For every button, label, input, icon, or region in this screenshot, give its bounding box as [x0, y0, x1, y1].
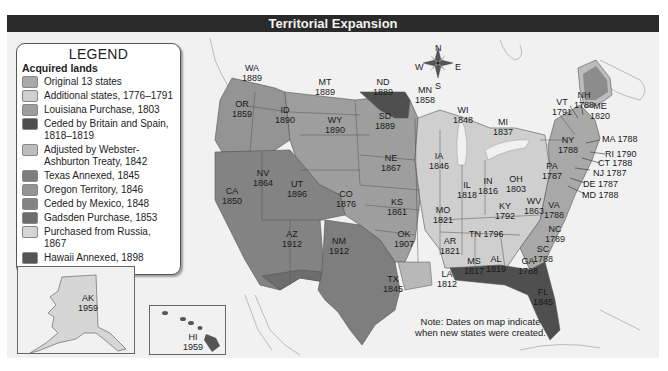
legend-swatch [22, 104, 38, 116]
state-label-la: LA1812 [437, 270, 457, 289]
state-label-ak: AK1959 [78, 294, 98, 313]
state-label-ia: IA1846 [429, 152, 449, 171]
state-label-ne: NE1867 [381, 154, 401, 173]
state-label-wi: WI1848 [453, 106, 473, 125]
state-label-co: CO1876 [336, 190, 356, 209]
legend-swatch [22, 252, 38, 264]
legend-item: Hawaii Annexed, 1898 [22, 252, 175, 264]
legend: LEGEND Acquired lands Original 13 states… [16, 43, 181, 275]
legend-swatch [22, 198, 38, 210]
state-label-or: OR1859 [232, 100, 252, 119]
state-label-tx: TX1845 [383, 275, 403, 294]
state-label-me: ME1820 [590, 102, 610, 121]
state-label-nc: NC1789 [545, 225, 565, 244]
legend-item: Oregon Territory, 1846 [22, 184, 175, 196]
state-label-ut: UT1896 [287, 180, 307, 199]
alaska-inset: AK1959 [17, 266, 135, 354]
legend-item: Original 13 states [22, 76, 175, 88]
state-label-mi: MI1837 [493, 118, 513, 137]
map-figure: Territorial Expansion [0, 0, 668, 371]
state-label-mt: MT1889 [315, 78, 335, 97]
state-label-mo: MO1821 [433, 206, 453, 225]
compass-south: S [435, 81, 441, 91]
legend-swatch [22, 170, 38, 182]
state-label-pa: PA1787 [542, 162, 562, 181]
callout-nj: NJ 1787 [593, 169, 627, 179]
map-title: Territorial Expansion [7, 15, 659, 32]
legend-swatch [22, 144, 38, 156]
state-label-id: ID1890 [275, 106, 295, 125]
legend-item: Purchased from Russia, 1867 [22, 226, 175, 250]
state-label-ny: NY1788 [558, 136, 578, 155]
hawaii-inset: HI1959 [149, 305, 226, 355]
legend-item: Additional states, 1776–1791 [22, 90, 175, 102]
callout-md: MD 1788 [582, 191, 619, 201]
legend-swatch [22, 90, 38, 102]
legend-item: Ceded by Britain and Spain, 1818–1819 [22, 118, 175, 142]
alaska-shape [18, 267, 136, 355]
legend-title: LEGEND [22, 47, 175, 62]
state-label-sd: SD1889 [375, 112, 395, 131]
legend-item: Texas Annexed, 1845 [22, 170, 175, 182]
state-label-in: IN1816 [478, 177, 498, 196]
state-label-nv: NV1864 [253, 169, 273, 188]
state-label-oh: OH1803 [506, 175, 526, 194]
state-label-nd: ND1889 [373, 78, 393, 97]
legend-item: Louisiana Purchase, 1803 [22, 104, 175, 116]
legend-swatch [22, 184, 38, 196]
legend-swatch [22, 76, 38, 88]
compass-north: N [435, 43, 442, 53]
state-label-wy: WY1890 [325, 116, 345, 135]
state-label-tn: TN 1796 [469, 230, 504, 240]
compass-west: W [415, 62, 424, 72]
state-label-ar: AR1821 [440, 237, 460, 256]
state-label-al: AL1819 [486, 255, 506, 274]
state-label-ms: MS1817 [464, 257, 484, 276]
state-label-ky: KY1792 [495, 202, 515, 221]
legend-swatch [22, 118, 38, 130]
legend-item: Adjusted by Webster-Ashburton Treaty, 18… [22, 144, 175, 168]
callout-ma: MA 1788 [602, 135, 638, 145]
state-label-nm: NM1912 [329, 237, 349, 256]
state-label-hi: HI1959 [183, 333, 203, 352]
state-label-vt: VT1791 [552, 98, 572, 117]
state-label-wa: WA1889 [242, 64, 262, 83]
legend-swatch [22, 212, 38, 224]
state-label-sc: SC1788 [533, 245, 553, 264]
state-label-az: AZ1912 [282, 230, 302, 249]
state-label-va: VA1788 [544, 201, 564, 220]
map-note: Note: Dates on map indicate when new sta… [413, 316, 548, 338]
legend-swatch [22, 226, 38, 238]
state-label-wv: WV1863 [524, 197, 544, 216]
state-label-il: IL1818 [457, 181, 477, 200]
state-label-mn: MN1858 [415, 86, 435, 105]
state-label-fl: FL1845 [533, 288, 553, 307]
state-label-ks: KS1861 [387, 198, 407, 217]
legend-subheading: Acquired lands [22, 62, 175, 75]
legend-item: Gadsden Purchase, 1853 [22, 212, 175, 224]
state-label-ca: CA1850 [222, 187, 242, 206]
legend-item: Ceded by Mexico, 1848 [22, 198, 175, 210]
compass-east: E [455, 62, 461, 72]
callout-de: DE 1787 [583, 180, 618, 190]
state-label-ok: OK1907 [394, 230, 414, 249]
